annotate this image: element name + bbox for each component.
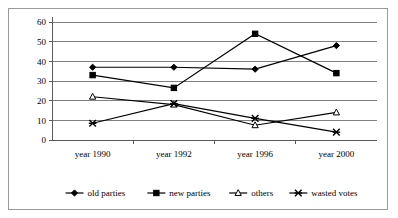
marker-filled-diamond	[71, 190, 77, 196]
gridlines	[52, 22, 377, 120]
y-axis-tick-label: 50	[37, 37, 47, 47]
marker-filled-square	[154, 190, 159, 195]
legend-item-old-parties[interactable]: old parties	[66, 188, 126, 198]
marker-filled-diamond	[333, 43, 339, 49]
legend-item-wasted-votes[interactable]: wasted votes	[289, 188, 358, 198]
legend-item-new-parties[interactable]: new parties	[147, 188, 211, 198]
marker-filled-square	[334, 70, 339, 75]
marker-filled-diamond	[171, 64, 177, 70]
chart-plot-area: 0102030405060 year 1990year 1992year 199…	[9, 9, 389, 211]
legend-label: wasted votes	[311, 188, 358, 198]
y-axis-tick-label: 30	[37, 76, 47, 86]
marker-filled-square	[171, 85, 176, 90]
data-series-layer	[89, 31, 340, 135]
line-chart: 0102030405060 year 1990year 1992year 199…	[9, 9, 389, 211]
x-axis-category-label: year 1996	[237, 149, 273, 159]
x-axis-category-label: year 1992	[156, 149, 192, 159]
y-axis-tick-label: 0	[42, 135, 47, 145]
x-axis-category-label: year 2000	[319, 149, 355, 159]
y-axis-tick-label: 10	[37, 116, 47, 126]
marker-open-triangle	[333, 109, 339, 115]
x-axis-category-labels: year 1990year 1992year 1996year 2000	[75, 149, 355, 159]
series-line	[93, 46, 337, 70]
chart-frame: 0102030405060 year 1990year 1992year 199…	[8, 8, 388, 210]
y-axis-tick-label: 20	[37, 96, 47, 106]
marker-filled-diamond	[252, 66, 258, 72]
y-axis-tick-label: 40	[37, 57, 47, 67]
legend-label: new parties	[169, 188, 211, 198]
legend-label: others	[251, 188, 273, 198]
y-axis-tick-labels: 0102030405060	[37, 17, 47, 145]
marker-filled-diamond	[90, 64, 96, 70]
legend-item-others[interactable]: others	[229, 188, 273, 198]
marker-open-triangle	[89, 93, 95, 99]
legend-label: old parties	[88, 188, 126, 198]
y-axis-tick-label: 60	[37, 17, 47, 27]
series-old-parties	[90, 43, 340, 73]
marker-filled-square	[90, 72, 95, 77]
chart-legend: old partiesnew partiesotherswasted votes	[66, 188, 359, 198]
x-axis-category-label: year 1990	[75, 149, 111, 159]
marker-filled-square	[252, 31, 257, 36]
